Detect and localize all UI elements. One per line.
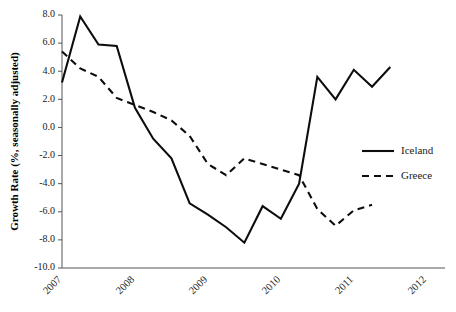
x-tick-label: 2009 bbox=[187, 274, 210, 297]
y-axis-title: Growth Rate (%, seasonally adjusted) bbox=[8, 52, 21, 231]
chart-canvas: 8.06.04.02.00.0-2.0-4.0-6.0-8.0-10.0 Gro… bbox=[0, 0, 456, 312]
y-tick-label: -2.0 bbox=[39, 149, 55, 160]
y-tick-label: 0.0 bbox=[43, 121, 56, 132]
x-axis-group: 200720082009201020112012 bbox=[41, 268, 445, 296]
y-tick-marks bbox=[58, 15, 62, 268]
x-tick-labels: 200720082009201020112012 bbox=[41, 274, 428, 297]
legend-label-iceland: Iceland bbox=[401, 144, 434, 156]
y-tick-label: 2.0 bbox=[43, 93, 56, 104]
growth-rate-line-chart: 8.06.04.02.00.0-2.0-4.0-6.0-8.0-10.0 Gro… bbox=[0, 0, 456, 312]
x-tick-label: 2012 bbox=[406, 274, 429, 297]
y-tick-label: 8.0 bbox=[43, 8, 56, 19]
series-line-greece bbox=[62, 52, 372, 226]
series-lines-group bbox=[62, 16, 390, 242]
series-line-iceland bbox=[62, 16, 390, 242]
y-tick-label: -6.0 bbox=[39, 205, 55, 216]
y-tick-label: -8.0 bbox=[39, 233, 55, 244]
y-tick-label: -4.0 bbox=[39, 177, 55, 188]
y-tick-labels: 8.06.04.02.00.0-2.0-4.0-6.0-8.0-10.0 bbox=[34, 8, 55, 272]
x-tick-label: 2010 bbox=[260, 274, 283, 297]
y-tick-label: 4.0 bbox=[43, 65, 56, 76]
x-tick-label: 2008 bbox=[114, 274, 137, 297]
y-tick-label: -10.0 bbox=[34, 261, 55, 272]
y-tick-label: 6.0 bbox=[43, 36, 56, 47]
x-tick-label: 2007 bbox=[41, 274, 64, 297]
x-tick-label: 2011 bbox=[333, 274, 355, 296]
y-axis-group: 8.06.04.02.00.0-2.0-4.0-6.0-8.0-10.0 Gro… bbox=[8, 8, 62, 272]
legend-label-greece: Greece bbox=[401, 169, 432, 181]
chart-legend: IcelandGreece bbox=[362, 144, 434, 181]
